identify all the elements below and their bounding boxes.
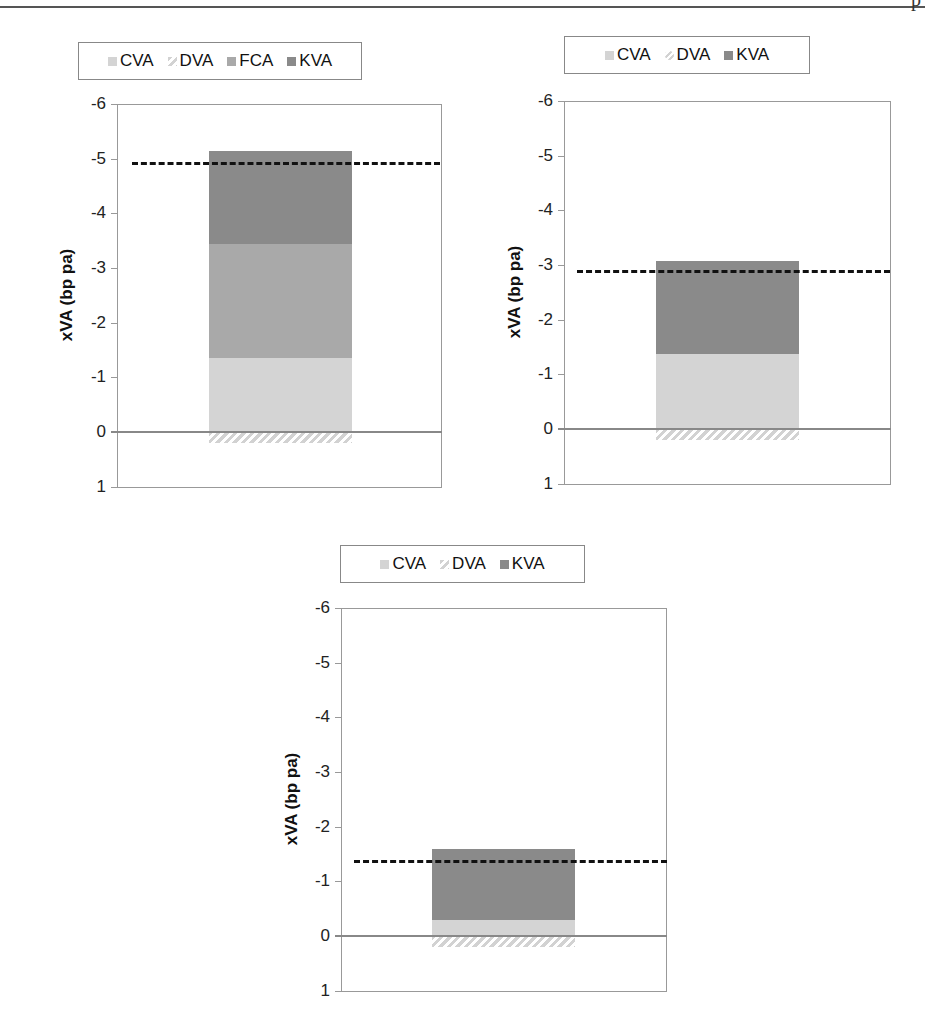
y-axis-label: xVA (bp pa) (57, 240, 77, 350)
y-tick-label: 1 (72, 477, 106, 497)
legend-label: DVA (452, 554, 486, 574)
y-tick-label: -1 (519, 364, 553, 384)
chart-1-legend: CVA DVA FCA KVA (78, 42, 362, 80)
legend-label: KVA (299, 51, 332, 71)
legend-label: KVA (512, 554, 545, 574)
chart-3-legend: CVA DVA KVA (340, 545, 585, 583)
legend-item-dva: DVA (665, 45, 711, 65)
y-tick (558, 265, 564, 266)
legend-item-kva: KVA (724, 45, 769, 65)
page-header-text: p (911, 0, 921, 11)
y-axis-label: xVA (bp pa) (282, 744, 302, 854)
bar-cva (432, 920, 575, 936)
legend-item-cva: CVA (108, 51, 154, 71)
legend-label: KVA (736, 45, 769, 65)
y-tick (111, 213, 117, 214)
cva-swatch-icon (108, 57, 117, 66)
bar-dva (209, 432, 352, 443)
y-tick-label: 1 (296, 981, 330, 1001)
legend-item-dva: DVA (440, 554, 486, 574)
y-tick (335, 608, 341, 609)
y-tick (558, 156, 564, 157)
y-tick-label: 0 (296, 926, 330, 946)
y-tick (335, 663, 341, 664)
y-tick (111, 487, 117, 488)
kva-swatch-icon (287, 57, 296, 66)
y-tick-label: -1 (72, 367, 106, 387)
kva-swatch-icon (724, 51, 733, 60)
y-tick (335, 881, 341, 882)
legend-label: FCA (239, 51, 273, 71)
y-tick-label: 0 (519, 419, 553, 439)
y-tick (111, 104, 117, 105)
cva-swatch-icon (380, 560, 389, 569)
y-tick (558, 484, 564, 485)
zero-line (558, 428, 891, 430)
y-tick-label: -6 (296, 598, 330, 618)
y-tick (558, 374, 564, 375)
y-tick-label: -4 (72, 203, 106, 223)
y-tick (558, 210, 564, 211)
kva-swatch-icon (500, 560, 509, 569)
y-tick (111, 377, 117, 378)
total-dashed-line (132, 162, 440, 165)
legend-item-cva: CVA (380, 554, 426, 574)
legend-label: DVA (180, 51, 214, 71)
zero-line (111, 431, 442, 433)
y-tick (335, 772, 341, 773)
y-axis-label: xVA (bp pa) (505, 237, 525, 347)
dva-swatch-icon (665, 51, 674, 60)
y-tick-label: -2 (72, 313, 106, 333)
y-tick (111, 268, 117, 269)
y-tick-label: -4 (296, 707, 330, 727)
y-tick (111, 159, 117, 160)
y-tick-label: -6 (519, 91, 553, 111)
y-tick-label: -3 (72, 258, 106, 278)
y-tick-label: -5 (296, 653, 330, 673)
dva-swatch-icon (168, 57, 177, 66)
page-header-rule (0, 6, 925, 8)
legend-label: CVA (120, 51, 154, 71)
bar-fca (209, 244, 352, 358)
y-tick-label: -1 (296, 871, 330, 891)
legend-label: CVA (392, 554, 426, 574)
legend-item-fca: FCA (227, 51, 273, 71)
bar-kva (656, 261, 799, 354)
cva-swatch-icon (605, 51, 614, 60)
bar-dva (656, 429, 799, 440)
legend-item-dva: DVA (168, 51, 214, 71)
bar-cva (656, 354, 799, 429)
dva-swatch-icon (440, 560, 449, 569)
y-tick (558, 101, 564, 102)
total-dashed-line (577, 270, 890, 273)
fca-swatch-icon (227, 57, 236, 66)
zero-line (335, 935, 667, 937)
y-tick (111, 323, 117, 324)
y-tick (335, 717, 341, 718)
legend-item-kva: KVA (500, 554, 545, 574)
legend-item-cva: CVA (605, 45, 651, 65)
y-tick-label: -4 (519, 200, 553, 220)
bar-dva (432, 936, 575, 947)
y-tick (558, 320, 564, 321)
y-tick-label: -5 (519, 146, 553, 166)
legend-label: DVA (677, 45, 711, 65)
chart-2-legend: CVA DVA KVA (564, 36, 810, 74)
y-tick-label: 1 (519, 474, 553, 494)
legend-label: CVA (617, 45, 651, 65)
y-tick-label: -6 (72, 94, 106, 114)
y-tick-label: -5 (72, 149, 106, 169)
y-tick (335, 827, 341, 828)
y-tick (335, 991, 341, 992)
legend-item-kva: KVA (287, 51, 332, 71)
total-dashed-line (354, 860, 667, 863)
y-tick-label: 0 (72, 422, 106, 442)
bar-cva (209, 358, 352, 432)
